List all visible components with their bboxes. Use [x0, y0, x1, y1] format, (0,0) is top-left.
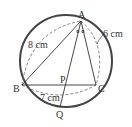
- label-q: Q: [56, 109, 64, 120]
- geometry-diagram: ∘ ∘ A B C P Q 8 cm 6 cm 7 cm: [0, 0, 132, 127]
- length-bp: 7 cm: [40, 92, 60, 103]
- label-a: A: [78, 9, 86, 20]
- angle-mark-right: ∘: [80, 27, 86, 37]
- label-c: C: [98, 83, 105, 94]
- label-b: B: [13, 83, 20, 94]
- label-p: P: [60, 74, 66, 85]
- length-ab: 8 cm: [28, 39, 48, 50]
- length-ac: 6 cm: [103, 28, 123, 39]
- leader-ac: [97, 35, 103, 44]
